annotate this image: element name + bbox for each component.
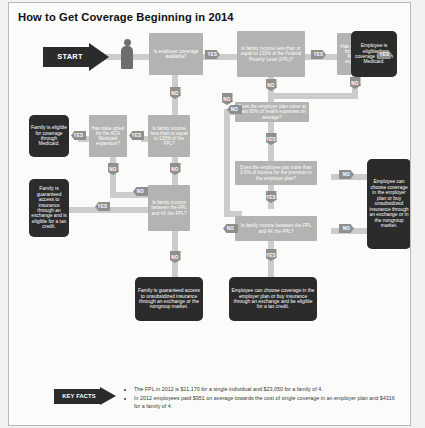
- decision-box-plan-covers-60-percent[interactable]: Does the employer plan cover at least 60…: [235, 102, 309, 122]
- decision-text: Does the employer plan cover at least 60…: [237, 104, 307, 119]
- decision-text: Is employer coverage available?: [151, 49, 201, 59]
- decision-box-state-medicaid-expansion[interactable]: Has state opted for the ACA Medicaid exp…: [89, 115, 127, 157]
- decision-box-family-income-133-fpl[interactable]: Is family income less than or equal to 1…: [148, 115, 190, 157]
- start-arrow: START: [43, 43, 115, 71]
- decision-box-income-133-fpl[interactable]: Is family income less than or equal to 1…: [237, 31, 305, 77]
- connector-d7-no-rail: [224, 109, 230, 217]
- key-facts-label: KEY FACTS: [56, 393, 102, 399]
- outcome-text: Family is guaranteed access to insurance…: [31, 186, 67, 230]
- decision-text: Does the employee pay more than 9.5% of …: [237, 165, 315, 180]
- edge-label-yes-d4: YES: [129, 131, 144, 140]
- edge-label-yes-d5: YES: [71, 131, 86, 140]
- outcome-box-family-exchange-tax-credit[interactable]: Family is guaranteed access to insurance…: [29, 179, 69, 237]
- outcome-text: Family is guaranteed access to unsubsidi…: [137, 288, 201, 310]
- start-label: START: [47, 52, 93, 61]
- page-background: How to Get Coverage Beginning in 2014: [0, 0, 425, 428]
- person-icon: [119, 39, 135, 69]
- notes-label: NOTES: [23, 424, 42, 426]
- key-facts-arrow-head: [100, 387, 116, 405]
- decision-text: Has state opted for the ACA Medicaid exp…: [91, 126, 125, 147]
- key-fact-item: The FPL in 2012 is $11,170 for a single …: [134, 385, 399, 393]
- connector-d3-no-across: [268, 93, 358, 99]
- edge-label-no-rail-right: NO: [222, 93, 233, 105]
- document-sheet: How to Get Coverage Beginning in 2014: [8, 2, 411, 426]
- key-fact-item: In 2012 employees paid $951 on average t…: [134, 394, 399, 410]
- flowchart: START Is employer coverage available? Is…: [21, 9, 405, 369]
- decision-box-employer-coverage[interactable]: Is employer coverage available?: [149, 33, 203, 75]
- edge-label-no-d9: NO: [223, 224, 238, 233]
- outcome-box-employee-exchange-tax-credit[interactable]: Employee can choose coverage in the empl…: [229, 277, 317, 321]
- decision-text: Is family income between the FPL and 4X …: [150, 200, 188, 215]
- decision-text: Is family income less than or equal to 1…: [150, 126, 188, 147]
- decision-text: Is family income between the FPL and 4X …: [237, 223, 315, 233]
- key-facts-list: The FPL in 2012 is $11,170 for a single …: [127, 385, 399, 411]
- outcome-box-employee-unsubsidized[interactable]: Employee can choose coverage in the empl…: [367, 159, 411, 249]
- outcome-box-family-unsubsidized[interactable]: Family is guaranteed access to unsubsidi…: [135, 277, 203, 321]
- key-facts-arrow: KEY FACTS: [54, 387, 120, 406]
- outcome-text: Employee can choose coverage in the empl…: [369, 179, 409, 228]
- decision-text: Is family income less than or equal to 1…: [239, 46, 303, 61]
- decision-box-income-between-fpl-4x-employee[interactable]: Is family income between the FPL and 4X …: [235, 216, 317, 241]
- outcome-text: Employee can choose coverage in the empl…: [231, 288, 315, 310]
- outcome-text: Family is eligible for coverage through …: [31, 125, 67, 147]
- person-body: [121, 46, 133, 69]
- outcome-box-family-medicaid[interactable]: Family is eligible for coverage through …: [29, 115, 69, 157]
- decision-box-income-between-fpl-4x[interactable]: Is family income between the FPL and 4X …: [148, 185, 190, 231]
- person-head: [124, 39, 131, 46]
- decision-box-premium-9-5-percent[interactable]: Does the employee pay more than 9.5% of …: [235, 161, 317, 185]
- connector-d6-to-o3: [68, 207, 156, 213]
